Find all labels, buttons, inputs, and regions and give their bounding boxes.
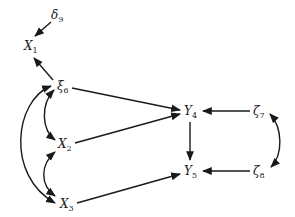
node-y4: Y4 [184,105,197,120]
node-subscript: 7 [260,111,265,120]
node-symbol: X [58,137,67,151]
node-subscript: 2 [67,144,72,153]
node-symbol: ξ [57,79,64,93]
path-diagram-canvas [0,0,295,217]
node-zeta8: ζ8 [253,165,265,180]
edge-x3-y5 [77,174,180,203]
node-x3: X3 [60,198,74,213]
edge-xi6-x3-covariance [21,86,55,203]
node-subscript: 1 [33,46,38,55]
node-zeta7: ζ7 [253,105,265,120]
node-subscript: 6 [64,86,69,95]
node-subscript: 8 [260,171,265,180]
node-x2: X2 [58,138,72,153]
node-subscript: 3 [69,204,74,213]
node-delta9: δ9 [51,9,63,24]
node-subscript: 4 [192,111,197,120]
edge-xi6-y4 [72,88,180,110]
node-x1: X1 [24,40,38,55]
node-symbol: X [24,39,33,53]
edge-delta9-x1 [35,22,51,36]
edge-xi6-x2-covariance [44,90,55,140]
edge-zeta7-zeta8-covariance [270,114,280,167]
node-symbol: Y [184,164,192,178]
node-xi6: ξ6 [57,80,69,95]
node-symbol: Y [184,104,192,118]
edge-xi6-x1 [34,58,53,80]
edge-x2-y4 [75,114,180,143]
node-symbol: X [60,197,69,211]
edge-x2-x3-covariance [44,152,55,196]
node-subscript: 5 [192,171,197,180]
node-subscript: 9 [58,15,63,24]
node-y5: Y5 [184,165,197,180]
